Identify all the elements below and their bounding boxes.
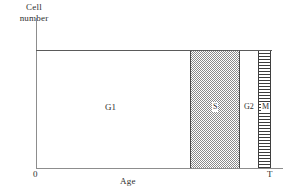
phase-label-s: S xyxy=(212,102,218,112)
x-tick-origin: 0 xyxy=(33,169,38,179)
phase-label-g2: G2 xyxy=(243,102,255,112)
phase-label-m: M xyxy=(261,102,270,112)
cell-number-plateau-line xyxy=(36,50,272,51)
x-axis-label: Age xyxy=(120,176,136,186)
phase-label-g1: G1 xyxy=(105,102,116,112)
x-axis-line xyxy=(36,168,283,169)
y-axis-label: Cell number xyxy=(4,2,64,24)
y-axis-label-line2: number xyxy=(4,13,64,24)
cell-cycle-figure: Cell number G1 S G2 M 0 T Age xyxy=(0,0,291,192)
y-axis-label-line1: Cell xyxy=(4,2,64,13)
x-tick-end: T xyxy=(267,169,273,179)
